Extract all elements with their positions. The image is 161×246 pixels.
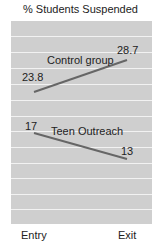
teen-outreach-label: Teen Outreach	[51, 125, 123, 137]
control-entry-value: 23.8	[22, 71, 43, 83]
teen-exit-value: 13	[121, 145, 133, 157]
control-exit-value: 28.7	[117, 44, 138, 56]
teen-entry-value: 17	[25, 120, 37, 132]
x-label-entry: Entry	[21, 229, 47, 241]
control-group-label: Control group	[47, 54, 114, 66]
x-label-exit: Exit	[118, 229, 136, 241]
